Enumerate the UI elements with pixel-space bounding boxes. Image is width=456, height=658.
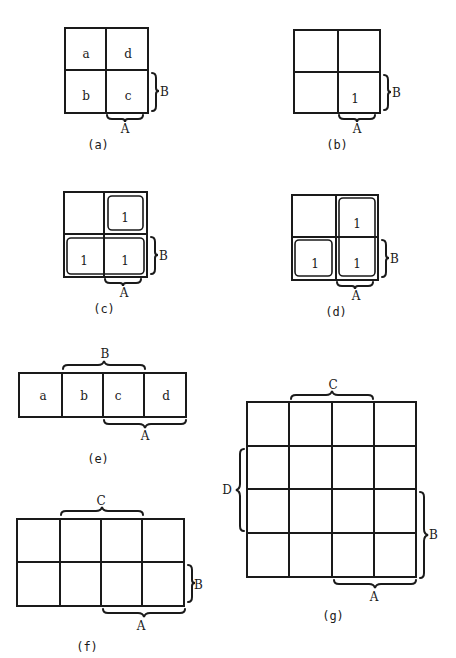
label-b-c: B <box>159 249 168 263</box>
caption-e: (e) <box>87 452 109 466</box>
brace-c-g <box>291 391 373 399</box>
label-a-c: A <box>119 286 129 300</box>
brace-a-a <box>107 115 143 122</box>
brace-c-f <box>61 507 143 515</box>
label-d-g: D <box>222 483 232 497</box>
brace-b-c <box>151 237 158 274</box>
brace-a-b <box>339 115 375 122</box>
label-b-e: B <box>101 347 110 361</box>
cell-b-3: 1 <box>351 92 359 106</box>
kmap-grid-f <box>17 519 184 606</box>
figure-f: C B A (f) <box>17 494 203 654</box>
figure-a: a d b c B A (a) <box>65 28 169 152</box>
cell-e-3: d <box>162 389 170 403</box>
cell-c-1: 1 <box>121 211 129 225</box>
label-c-g: C <box>328 378 337 392</box>
kmap-grid-b <box>294 30 380 113</box>
cell-d-1: 1 <box>353 217 361 231</box>
caption-a: (a) <box>87 138 109 152</box>
cell-e-2: c <box>115 389 122 403</box>
kmap-grid-d <box>292 195 378 280</box>
kmap-grid-c <box>64 192 147 277</box>
brace-a-d <box>337 282 373 289</box>
label-b-f: B <box>194 578 203 592</box>
brace-a-g <box>334 580 416 588</box>
label-a-d: A <box>351 289 361 303</box>
kmap-grid-a <box>65 28 148 113</box>
brace-b-a <box>152 73 159 111</box>
brace-b-e <box>63 361 145 369</box>
grouping-loop-c-bottom <box>67 238 144 274</box>
brace-b-g <box>420 492 428 578</box>
brace-b-d <box>382 240 389 277</box>
caption-g: (g) <box>322 609 344 623</box>
label-b-d: B <box>390 252 399 266</box>
cell-c-2: 1 <box>80 254 88 268</box>
caption-d: (d) <box>325 305 347 319</box>
label-b-g: B <box>429 528 438 542</box>
cell-d-2: 1 <box>311 257 319 271</box>
cell-e-1: b <box>80 389 88 403</box>
brace-a-f <box>103 609 185 617</box>
brace-a-e <box>104 420 186 428</box>
label-a-f: A <box>136 619 146 633</box>
figure-b: 1 B A (b) <box>294 30 401 152</box>
caption-f: (f) <box>76 640 98 654</box>
label-a-b: A <box>352 122 362 136</box>
cell-a-1: d <box>124 47 132 61</box>
label-b-b: B <box>392 86 401 100</box>
label-c-f: C <box>96 494 105 508</box>
cell-c-3: 1 <box>121 254 129 268</box>
figure-g: C D B A (g) <box>222 378 438 623</box>
figure-c: 1 1 1 B A (c) <box>64 192 168 316</box>
label-b-a: B <box>160 85 169 99</box>
figure-d: 1 1 1 B A (d) <box>292 195 399 319</box>
brace-b-b <box>384 75 391 110</box>
figure-e: a b c d B A (e) <box>19 347 186 466</box>
cell-e-0: a <box>39 389 46 403</box>
label-a-g: A <box>369 590 379 604</box>
cell-a-2: b <box>82 89 90 103</box>
caption-b: (b) <box>326 138 348 152</box>
cell-a-3: c <box>125 89 132 103</box>
cell-d-3: 1 <box>353 257 361 271</box>
kmap-grid-g <box>247 402 416 577</box>
label-a-a: A <box>120 122 130 136</box>
label-a-e: A <box>140 429 150 443</box>
cell-a-0: a <box>82 47 89 61</box>
caption-c: (c) <box>93 302 115 316</box>
karnaugh-map-figure: a d b c B A (a) 1 B A (b) 1 1 1 <box>0 0 456 658</box>
brace-d-g <box>236 449 244 531</box>
brace-a-c <box>105 279 141 286</box>
